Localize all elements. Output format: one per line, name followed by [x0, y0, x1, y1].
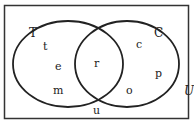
element-o: o [126, 84, 133, 97]
universe-label: U [184, 84, 194, 98]
element-m: m [53, 84, 64, 97]
venn-diagram: T C U t e m r c p o u [0, 0, 194, 121]
set-c-label: C [154, 26, 163, 40]
element-e: e [55, 60, 62, 73]
element-u: u [93, 104, 100, 117]
element-r: r [94, 57, 100, 70]
element-p: p [155, 67, 162, 80]
element-c: c [136, 38, 142, 51]
element-t: t [43, 40, 48, 53]
set-t-label: T [29, 26, 37, 40]
